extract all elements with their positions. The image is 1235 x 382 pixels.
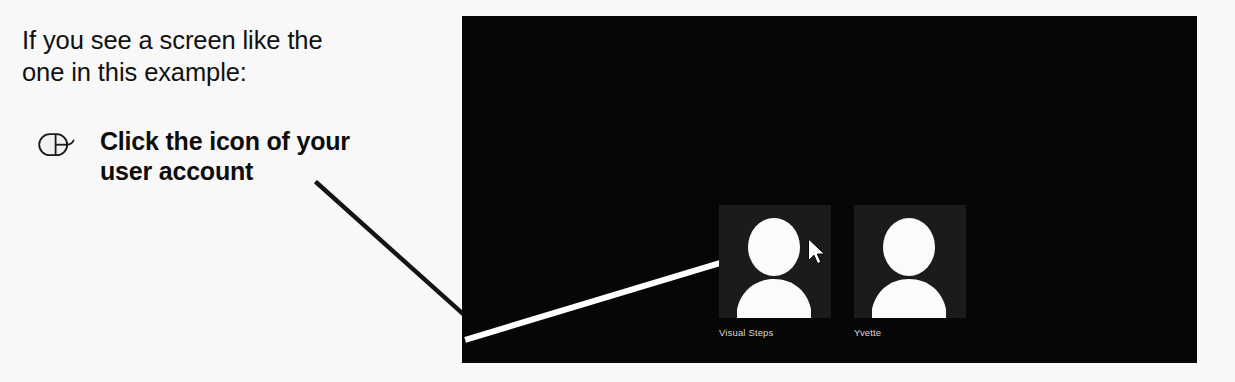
instruction-step: Click the icon of your user account xyxy=(22,126,442,186)
user-account-tile[interactable]: Visual Steps xyxy=(719,205,831,339)
mouse-click-icon xyxy=(22,126,100,158)
intro-line-1: If you see a screen like the xyxy=(22,24,442,56)
intro-paragraph: If you see a screen like the one in this… xyxy=(22,24,442,88)
person-silhouette-icon xyxy=(719,205,831,318)
account-name-label: Yvette xyxy=(854,327,966,339)
avatar[interactable] xyxy=(854,205,966,318)
figure-canvas: If you see a screen like the one in this… xyxy=(0,0,1235,382)
person-silhouette-icon xyxy=(854,205,966,318)
leader-line-outside xyxy=(300,170,485,335)
account-name-label: Visual Steps xyxy=(719,327,831,339)
user-account-tile[interactable]: Yvette xyxy=(854,205,966,339)
instruction-line-2: user account xyxy=(100,156,350,186)
login-screen-screenshot: Visual Steps Yvette xyxy=(462,16,1197,363)
instruction-text: Click the icon of your user account xyxy=(100,126,350,186)
avatar[interactable] xyxy=(719,205,831,318)
intro-line-2: one in this example: xyxy=(22,56,442,88)
instruction-line-1: Click the icon of your xyxy=(100,126,350,156)
